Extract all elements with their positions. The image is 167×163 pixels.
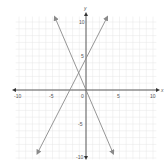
graph-svg: x y -10 -5 0 5 10 10 5 -5 -10 [0,0,167,163]
y-tick-neg10: -10 [76,154,83,160]
x-tick-neg5: -5 [49,93,54,99]
x-tick-0: 0 [81,93,84,99]
line-falling [55,18,113,153]
y-tick-10: 10 [79,19,85,25]
y-tick-neg5: -5 [78,121,83,127]
y-tick-5: 5 [81,53,84,59]
x-tick-5: 5 [117,93,120,99]
line-rising [38,18,107,153]
coordinate-plane: x y -10 -5 0 5 10 10 5 -5 -10 [0,0,167,163]
x-axis-label: x [160,87,164,93]
plotted-lines [38,18,113,153]
x-tick-10: 10 [150,93,156,99]
y-axis-label: y [83,5,87,11]
x-tick-neg10: -10 [14,93,21,99]
